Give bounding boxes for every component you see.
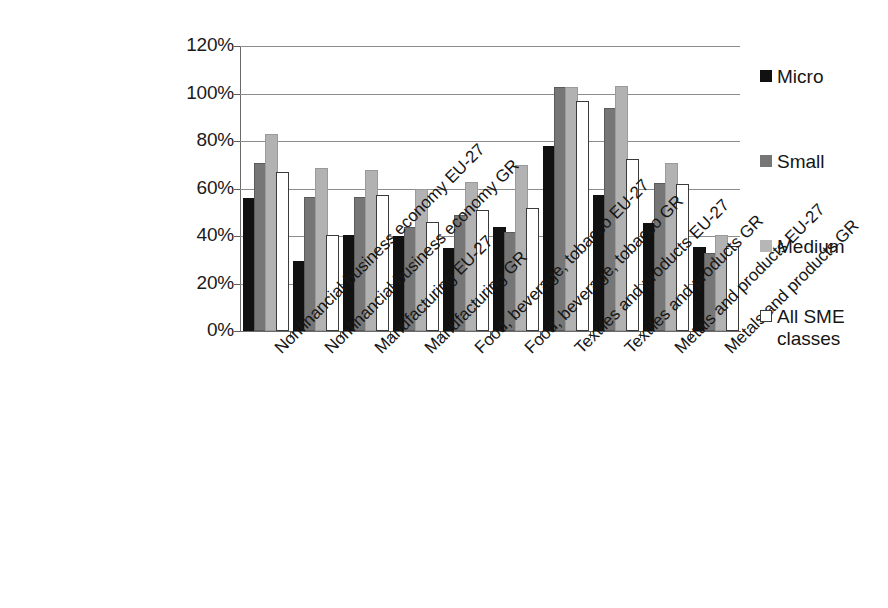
- y-axis-tick-label: 100%: [164, 82, 234, 104]
- chart-legend: MicroSmallMediumAll SME classes: [760, 46, 888, 331]
- legend-swatch-micro: [760, 70, 772, 82]
- bar-chart-figure: 0%20%40%60%80%100%120% Nonfinancial busi…: [0, 0, 888, 608]
- legend-item[interactable]: Small: [760, 151, 825, 173]
- y-axis-tick-label: 80%: [164, 129, 234, 151]
- legend-swatch-allsme: [760, 310, 772, 322]
- legend-swatch-small: [760, 155, 772, 167]
- legend-label: Small: [777, 151, 825, 173]
- bar-group: [240, 46, 290, 331]
- legend-swatch-medium: [760, 240, 772, 252]
- y-axis-tick-label: 20%: [164, 272, 234, 294]
- legend-item[interactable]: All SME classes: [760, 306, 845, 350]
- y-axis-tick-label: 0%: [164, 319, 234, 341]
- y-axis-tick: [234, 331, 240, 332]
- y-axis-tick-label: 60%: [164, 177, 234, 199]
- legend-item[interactable]: Medium: [760, 236, 845, 258]
- legend-label: Medium: [777, 236, 845, 258]
- legend-label: Micro: [777, 66, 823, 88]
- legend-label: All SME classes: [777, 306, 845, 350]
- legend-item[interactable]: Micro: [760, 66, 823, 88]
- y-axis-tick-label: 40%: [164, 224, 234, 246]
- y-axis-tick-label: 120%: [164, 34, 234, 56]
- bar: [276, 172, 289, 331]
